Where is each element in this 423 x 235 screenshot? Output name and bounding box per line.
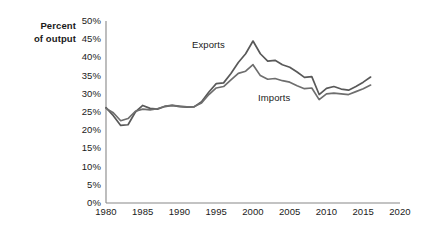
y-axis-tick-label: 45% [60, 33, 101, 44]
series-line-imports [106, 65, 371, 121]
y-axis-tick-label: 40% [60, 51, 101, 62]
x-axis-tick-label: 2020 [376, 206, 423, 217]
y-axis-tick-label: 15% [60, 142, 101, 153]
series-label-imports: Imports [258, 92, 290, 103]
axis-lines [106, 21, 400, 203]
y-axis-tick-label: 30% [60, 88, 101, 99]
y-axis-tick-label: 35% [60, 70, 101, 81]
y-axis-tick-label: 20% [60, 124, 101, 135]
chart-container: Percent of output 50%45%40%35%30%25%20%1… [0, 0, 423, 235]
series-line-exports [106, 41, 371, 125]
y-axis-tick-label: 25% [60, 106, 101, 117]
y-axis-tick-label: 10% [60, 161, 101, 172]
y-axis-tick-label: 5% [60, 179, 101, 190]
series-label-exports: Exports [192, 39, 225, 50]
series-paths [106, 41, 371, 125]
y-axis-tick-label: 50% [60, 15, 101, 26]
